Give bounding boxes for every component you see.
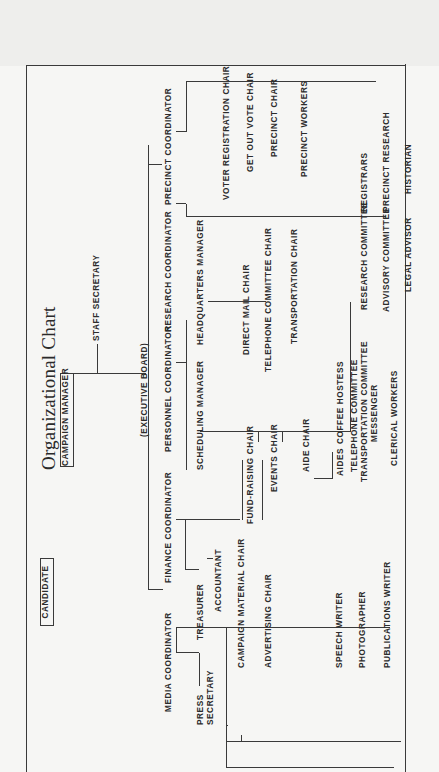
precinct-precinct-chair: PRECINCT CHAIR <box>270 79 280 157</box>
hq-item-transportation-chair: TRANSPORTATION CHAIR <box>290 229 300 344</box>
research-registrars: REGISTRARS <box>360 152 370 212</box>
border-top <box>26 66 27 772</box>
finance-events-chair: EVENTS CHAIR <box>270 424 280 492</box>
finance-fund-raising-chair: FUND-RAISING CHAIR <box>246 425 256 524</box>
coordinator-media: MEDIA COORDINATOR <box>164 612 174 712</box>
precinct-rail <box>186 81 376 82</box>
events-line <box>262 460 263 520</box>
personnel-scheduling-manager: SCHEDULING MANAGER <box>196 360 206 470</box>
coordinator-research: RESEARCH COORDINATOR <box>164 211 174 332</box>
research-drop <box>176 203 186 204</box>
media-item-campaign-material-chair: CAMPAIGN MATERIAL CHAIR <box>237 538 247 668</box>
finance-accountant: ACCOUNTANT <box>214 549 224 612</box>
staff-clerical-workers: CLERICAL WORKERS <box>390 370 400 466</box>
staff-secretary-line <box>97 344 98 374</box>
candidate-label: CANDIDATE <box>41 559 51 625</box>
media-item-publications-writer: PUBLICATIONS WRITER <box>383 561 393 668</box>
press-secretary-line2: SECRETARY <box>206 670 216 725</box>
cm-to-board-line <box>73 373 146 374</box>
personnel-headquarters-manager: HEADQUARTERS MANAGER <box>196 219 206 345</box>
coordinator-precinct: PRECINCT COORDINATOR <box>164 88 174 205</box>
press-secretary-label: PRESS SECRETARY <box>196 670 216 725</box>
tick-cmc <box>241 735 242 742</box>
staff-secretary-label: STAFF SECRETARY <box>92 254 102 341</box>
treasurer-connector <box>185 520 186 570</box>
media-item-advertising-chair: ADVERTISING CHAIR <box>264 574 274 668</box>
campaign-manager-box: CAMPAIGN MANAGER <box>60 373 74 467</box>
press-sec-stub <box>176 628 177 653</box>
research-legal-advisor: LEGAL ADVISOR <box>404 217 414 292</box>
press-secretary-line1: PRESS <box>196 670 206 725</box>
staff-messenger: MESSENGER <box>370 384 380 442</box>
precinct-bus <box>186 82 187 132</box>
fund-raising-line <box>242 460 243 520</box>
hq-item-telephone-committee-chair: TELEPHONE COMMITTEE CHAIR <box>264 227 274 372</box>
research-research-committee: RESEARCH COMMITTEE <box>360 202 370 310</box>
staff-transportation-committee: TRANSPORTATION COMMITTEE <box>360 341 370 482</box>
personnel-aide-chair: AIDE CHAIR <box>302 418 312 472</box>
precinct-stub <box>176 131 186 132</box>
precinct-voter-registration-chair: VOTER REGISTRATION CHAIR <box>222 66 232 200</box>
staff-telephone-committee: TELEPHONE COMMITTEE <box>350 359 360 472</box>
coordinator-finance: FINANCE COORDINATOR <box>164 472 174 583</box>
chart-title: Organizational Chart <box>38 306 60 470</box>
aide-chair-line <box>314 478 332 479</box>
precinct-get-out-vote-chair: GET OUT VOTE CHAIR <box>246 72 256 172</box>
research-historian: HISTORIAN <box>404 144 414 194</box>
personnel-aides: AIDES <box>336 448 346 476</box>
page-edge <box>0 0 439 66</box>
aides-connector <box>332 452 333 479</box>
candidate-box: CANDIDATE <box>40 558 54 626</box>
media-item-speech-writer: SPEECH WRITER <box>335 592 345 668</box>
border-right <box>26 65 406 66</box>
finance-branch-line <box>185 519 240 520</box>
accountant-link <box>207 558 213 559</box>
treasurer-line <box>185 569 199 570</box>
personnel-bus <box>186 320 187 470</box>
media-left-line <box>226 767 394 768</box>
hq-rail <box>208 301 266 302</box>
executive-bus <box>148 145 149 590</box>
finance-treasurer: TREASURER <box>196 584 206 640</box>
tick-fund <box>258 432 259 442</box>
campaign-manager-label: CAMPAIGN MANAGER <box>61 374 71 466</box>
precinct-drop <box>148 164 162 165</box>
precinct-precinct-workers: PRECINCT WORKERS <box>300 81 310 177</box>
personnel-coffee-hostess: COFFEE HOSTESS <box>336 361 346 444</box>
tick-events <box>282 432 283 442</box>
research-precinct-research: PRECINCT RESEARCH <box>382 112 392 212</box>
org-chart-page: Organizational Chart CANDIDATE CAMPAIGN … <box>0 0 439 772</box>
media-items-rail <box>226 741 401 742</box>
media-bottom-bus <box>226 628 227 768</box>
research-rail <box>186 216 386 217</box>
scheduling-rail <box>200 431 350 432</box>
personnel-drop <box>176 362 186 363</box>
media-drop <box>148 589 163 590</box>
press-sec-line <box>176 652 199 653</box>
hq-item-direct-mail-chair: DIRECT MAIL CHAIR <box>242 264 252 355</box>
media-item-photographer: PHOTOGRAPHER <box>358 591 368 668</box>
research-advisory-committee: ADVISORY COMMITTEE <box>382 207 392 312</box>
coordinator-personnel: PERSONNEL COORDINATOR <box>164 325 174 452</box>
